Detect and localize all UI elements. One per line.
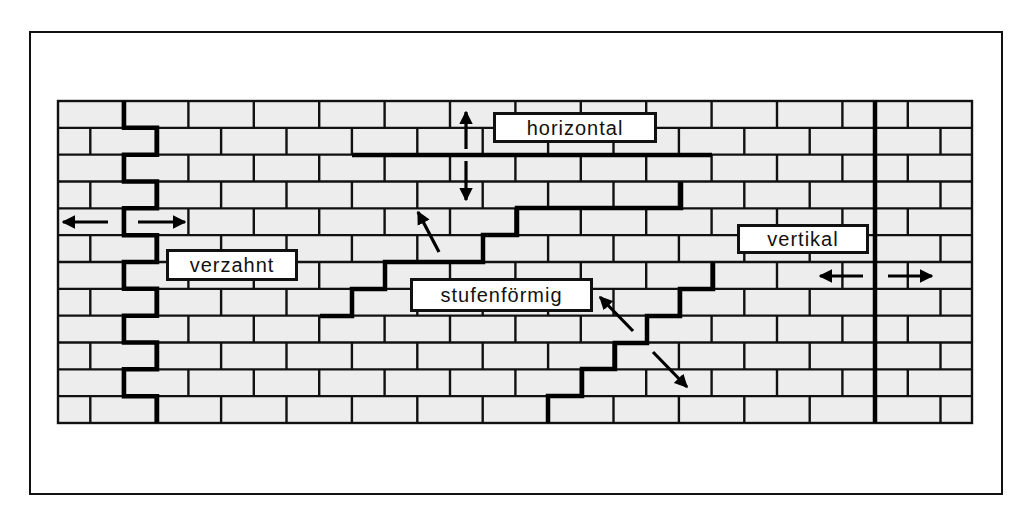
label-verzahnt: verzahnt bbox=[166, 249, 298, 281]
masonry-wall-diagram bbox=[0, 0, 1032, 522]
label-stufenfoermig: stufenförmig bbox=[410, 278, 593, 312]
label-vertikal: vertikal bbox=[737, 224, 869, 254]
label-horizontal: horizontal bbox=[493, 112, 657, 143]
